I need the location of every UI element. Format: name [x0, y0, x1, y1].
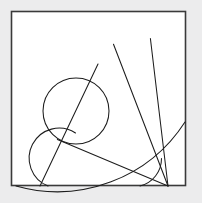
bounding-square-frame: [12, 12, 186, 186]
figure-container: [0, 0, 202, 203]
geometry-diagram: [0, 0, 202, 203]
